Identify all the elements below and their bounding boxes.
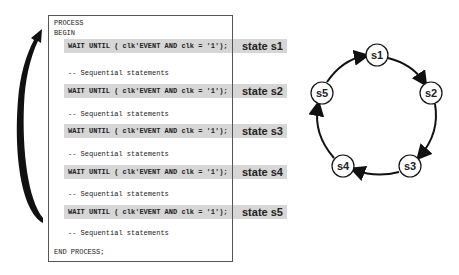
svg-text:s1: s1 (371, 49, 383, 61)
edge-s3-s4 (355, 170, 399, 175)
edge-s4-s5 (317, 106, 334, 158)
svg-text:s5: s5 (316, 87, 328, 99)
svg-text:s3: s3 (404, 160, 416, 172)
node-s2: s2 (420, 82, 442, 104)
svg-text:s4: s4 (337, 160, 350, 172)
node-s3: s3 (399, 155, 421, 177)
edge-s2-s3 (420, 104, 436, 156)
edge-s5-s1 (327, 56, 364, 82)
node-s5: s5 (311, 82, 333, 104)
node-s4: s4 (332, 155, 354, 177)
state-diagram: s1 s2 s3 s4 s5 (0, 0, 459, 275)
node-s1: s1 (366, 44, 388, 66)
svg-text:s2: s2 (425, 87, 437, 99)
edge-s1-s2 (388, 58, 424, 82)
